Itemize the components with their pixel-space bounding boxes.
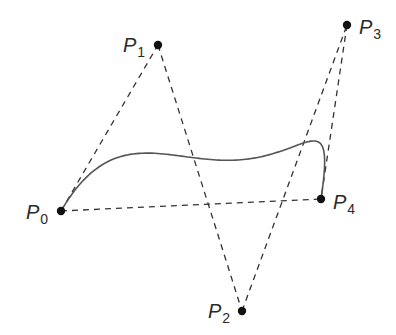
control-point-p3 xyxy=(343,21,351,29)
bezier-diagram: P0P1P2P3P4 xyxy=(0,0,396,335)
edge-p2-p3 xyxy=(242,25,347,311)
label-p4: P4 xyxy=(333,191,355,217)
control-points xyxy=(57,21,351,315)
control-polygon xyxy=(61,25,347,311)
control-point-p1 xyxy=(154,41,162,49)
label-p1: P1 xyxy=(123,34,145,60)
edge-p1-p2 xyxy=(158,45,242,311)
control-point-p4 xyxy=(317,195,325,203)
label-p2: P2 xyxy=(208,300,230,326)
label-p0: P0 xyxy=(26,201,48,227)
edge-p0-p4 xyxy=(61,199,321,211)
control-point-p0 xyxy=(57,207,65,215)
edge-p0-p1 xyxy=(61,45,158,211)
control-point-p2 xyxy=(238,307,246,315)
label-p3: P3 xyxy=(359,16,381,42)
point-labels: P0P1P2P3P4 xyxy=(26,16,381,326)
